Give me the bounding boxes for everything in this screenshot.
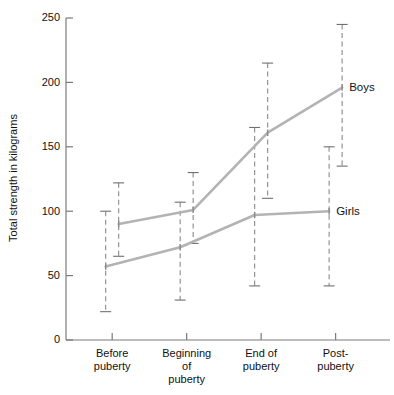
y-tick-label: 50 (48, 269, 60, 281)
y-tick-label: 200 (42, 76, 60, 88)
series-label-girls: Girls (336, 205, 360, 217)
y-tick-label: 250 (42, 11, 60, 23)
x-tick-label: Beforepuberty (94, 347, 131, 372)
y-axis-ticks: 050100150200250 (42, 11, 73, 345)
series-label-boys: Boys (349, 81, 375, 93)
y-axis-title: Total strength in kilograms (7, 114, 19, 242)
y-tick-label: 100 (42, 205, 60, 217)
series-lines-group (106, 88, 342, 267)
y-tick-label: 0 (54, 333, 60, 345)
chart-container: Total strength in kilograms 050100150200… (0, 0, 394, 395)
y-tick-label: 150 (42, 140, 60, 152)
x-axis-ticks (112, 333, 335, 340)
x-axis-tick-labels-group: BeforepubertyBeginningofpubertyEnd ofpub… (94, 347, 355, 385)
series-line-boys (119, 88, 342, 225)
strength-by-puberty-stage-line-chart: Total strength in kilograms 050100150200… (0, 0, 394, 395)
x-tick-label: Post-puberty (317, 347, 354, 372)
x-tick-label: Beginningofpuberty (162, 347, 211, 385)
error-bars-group (100, 24, 347, 311)
x-tick-label: End ofpuberty (243, 347, 280, 372)
